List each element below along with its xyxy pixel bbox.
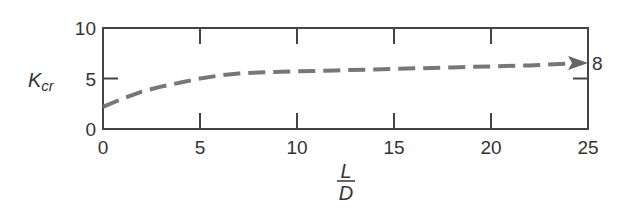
xtick-label-25: 25 (577, 137, 598, 158)
xtick-marks (200, 28, 491, 129)
xtick-label-10: 10 (286, 137, 307, 158)
xtick-label-20: 20 (480, 137, 501, 158)
xtick-label-5: 5 (195, 137, 206, 158)
ytick-label-0: 0 (85, 119, 96, 140)
ytick-label-5: 5 (85, 69, 96, 90)
kcr-dashed-curve (103, 63, 574, 107)
x-axis-label-denominator: D (339, 182, 353, 204)
xtick-label-0: 0 (98, 137, 109, 158)
xtick-label-15: 15 (383, 137, 404, 158)
x-axis-label-numerator: L (340, 160, 351, 182)
ytick-label-10: 10 (75, 18, 96, 39)
arrowhead-icon (568, 56, 588, 70)
y-axis-label: Kcr (28, 69, 55, 94)
arrow-label: 8 (592, 53, 603, 74)
chart-canvas: 10 5 0 0 5 10 15 20 25 Kcr L D 8 (0, 0, 637, 215)
plot-frame (103, 28, 588, 129)
